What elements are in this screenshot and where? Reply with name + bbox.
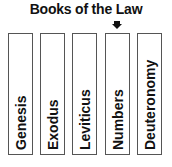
diagram-title: Books of the Law bbox=[0, 0, 172, 18]
book-deuteronomy: Deuteronomy bbox=[137, 33, 162, 155]
book-numbers: Numbers bbox=[105, 33, 130, 155]
book-label: Exodus bbox=[45, 99, 61, 150]
book-leviticus: Leviticus bbox=[72, 33, 97, 155]
book-label: Deuteronomy bbox=[142, 60, 158, 150]
arrow-head bbox=[112, 24, 122, 29]
book-genesis: Genesis bbox=[8, 33, 33, 155]
book-label: Genesis bbox=[13, 96, 29, 150]
book-label: Numbers bbox=[110, 89, 126, 150]
book-exodus: Exodus bbox=[40, 33, 65, 155]
book-label: Leviticus bbox=[77, 89, 93, 150]
